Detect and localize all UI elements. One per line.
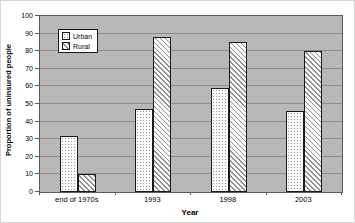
y-tick-mark-90 [35,33,39,34]
y-tick-label-0: 0 [3,188,33,195]
y-tick-label-70: 70 [3,64,33,71]
bar-chart: Proportion of uninsured people UrbanRura… [0,0,355,223]
x-tick-mark-1 [115,192,116,195]
bar-group-1993 [116,16,192,192]
x-tick-label-1993: 1993 [144,196,161,204]
legend-item-urban: Urban [62,32,92,40]
bar-group-2003 [267,16,343,192]
y-tick-label-90: 90 [3,29,33,36]
legend-swatch-urban-icon [62,32,70,40]
legend: UrbanRural [58,29,98,53]
plot-area: UrbanRural [39,15,343,193]
y-tick-mark-70 [35,68,39,69]
x-tick-mark-2 [190,192,191,195]
y-tick-label-30: 30 [3,135,33,142]
legend-swatch-rural-icon [62,42,70,50]
legend-label-urban: Urban [73,33,92,40]
legend-item-rural: Rural [62,42,92,50]
bar-urban-1998 [211,88,229,192]
x-tick-label-2003: 2003 [295,196,312,204]
x-tick-label-end of 1970s: end of 1970s [55,196,98,204]
bar-rural-1993 [153,37,171,192]
y-tick-mark-60 [35,85,39,86]
bar-rural-1998 [229,42,247,192]
x-tick-mark-3 [266,192,267,195]
y-tick-mark-20 [35,156,39,157]
y-tick-label-80: 80 [3,47,33,54]
y-tick-label-20: 20 [3,152,33,159]
x-tick-label-1998: 1998 [219,196,236,204]
y-tick-label-50: 50 [3,100,33,107]
x-tick-mark-0 [39,192,40,195]
bar-rural-end of 1970s [78,174,96,192]
legend-label-rural: Rural [73,43,90,50]
y-tick-mark-80 [35,50,39,51]
y-tick-mark-100 [35,15,39,16]
bar-urban-1993 [135,109,153,192]
y-tick-label-100: 100 [3,12,33,19]
y-tick-mark-40 [35,121,39,122]
y-tick-label-60: 60 [3,82,33,89]
bar-urban-2003 [286,111,304,192]
bar-group-1998 [191,16,267,192]
y-tick-label-10: 10 [3,170,33,177]
x-axis-title: Year [39,209,341,217]
y-tick-mark-50 [35,103,39,104]
y-tick-mark-10 [35,173,39,174]
bar-rural-2003 [304,51,322,192]
bar-urban-end of 1970s [60,136,78,192]
y-tick-label-40: 40 [3,117,33,124]
y-tick-mark-30 [35,138,39,139]
x-tick-mark-4 [341,192,342,195]
